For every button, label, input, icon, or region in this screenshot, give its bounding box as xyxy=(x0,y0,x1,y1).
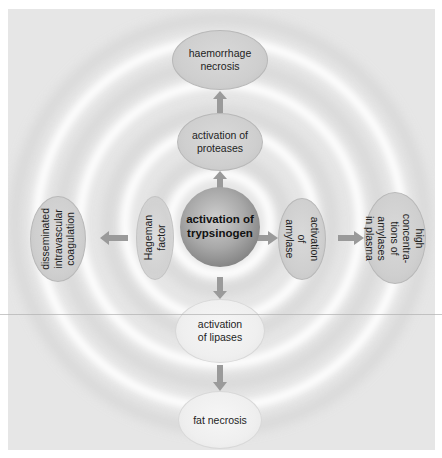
node-high-concentrations-of-amylases: high concentra- tions of amylases in pla… xyxy=(364,192,426,284)
node-label: haemorrhage necrosis xyxy=(189,47,251,72)
node-label: activation of lipases xyxy=(198,318,242,343)
node-label: Hageman factor xyxy=(142,215,167,261)
node-label: activation of amylase xyxy=(283,216,321,262)
node-label: high concentra- tions of amylases in pla… xyxy=(364,208,427,268)
scan-line xyxy=(0,314,442,315)
diagram-panel: haemorrhage necrosis activation of prote… xyxy=(8,9,435,450)
node-activation-of-trypsinogen: activation of trypsinogen xyxy=(180,187,260,267)
node-fat-necrosis: fat necrosis xyxy=(178,391,262,449)
arrow-down-icon xyxy=(213,365,227,391)
arrow-left-icon xyxy=(100,231,128,245)
node-haemorrhage-necrosis: haemorrhage necrosis xyxy=(172,30,268,90)
node-activation-of-lipases: activation of lipases xyxy=(175,299,265,363)
node-activation-of-proteases: activation of proteases xyxy=(177,113,263,171)
node-label: activation of trypsinogen xyxy=(186,213,254,241)
arrow-down-icon xyxy=(213,277,227,299)
node-label: fat necrosis xyxy=(193,414,247,427)
arrow-up-icon xyxy=(213,91,227,113)
node-label: disseminated intravascular coagulation xyxy=(39,208,77,270)
node-label: activation of proteases xyxy=(192,129,248,154)
node-disseminated-intravascular-coagulation: disseminated intravascular coagulation xyxy=(30,196,86,282)
node-activation-of-amylase: activation of amylase xyxy=(278,198,326,280)
node-hageman-factor: Hageman factor xyxy=(136,196,174,280)
arrow-right-icon xyxy=(338,231,364,245)
